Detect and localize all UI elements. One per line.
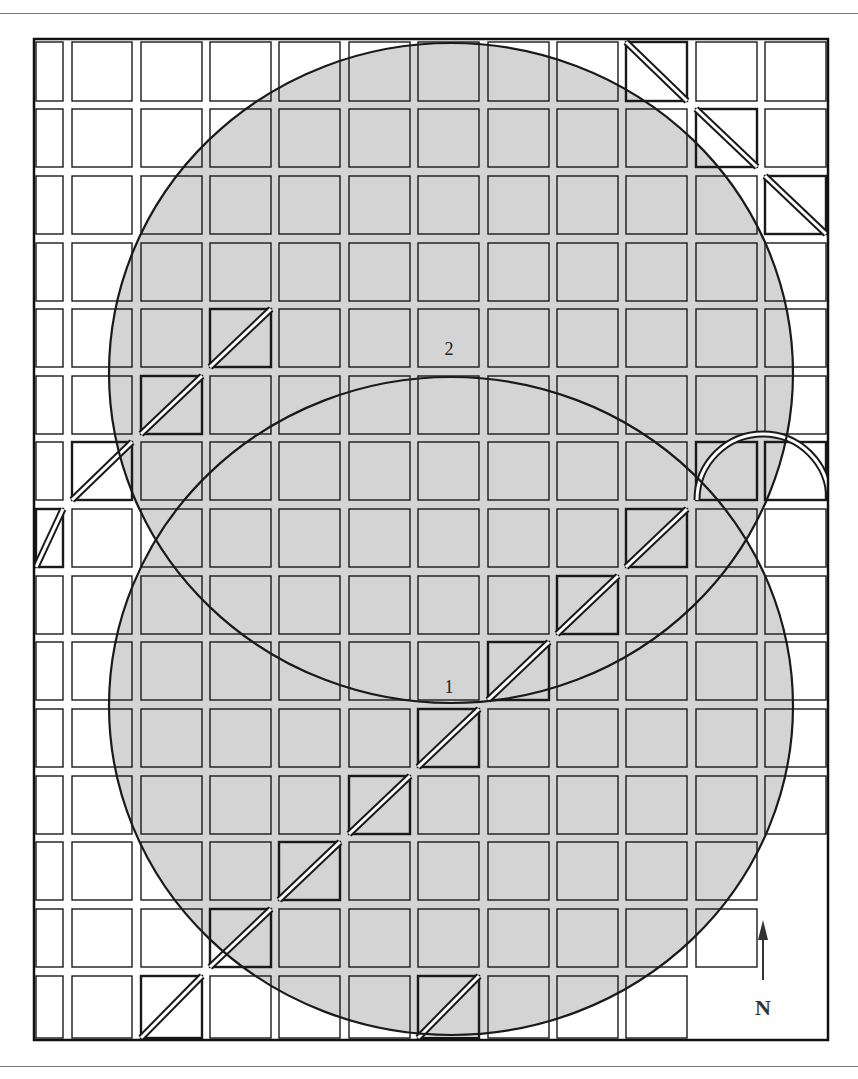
block-cell [36,376,63,434]
block-cell [36,42,63,101]
block-cell [72,109,132,167]
block-cell [72,976,132,1038]
north-arrow-head-icon [758,920,768,940]
diagonal-road [36,509,63,567]
diagonal-road [72,442,132,500]
circle-2-label: 2 [445,339,454,359]
block-cell [36,442,63,500]
diagonal-road [141,976,202,1038]
block-cell [210,42,271,101]
coverage-shading [109,43,793,1035]
block-cell [36,109,63,167]
block-cell [36,642,63,700]
diagonal-road [765,176,826,234]
block-cell [36,776,63,834]
block-cell [210,976,271,1038]
block-cell [36,309,63,367]
block-cell [36,709,63,767]
circle-2-area [109,43,793,703]
block-cell [765,42,826,101]
block-cell [36,976,63,1038]
block-cell [72,842,132,900]
north-label: N [755,995,771,1020]
block-cell [36,243,63,301]
block-cell [696,42,757,101]
block-cell [36,909,63,967]
diagonal-road [626,42,687,101]
block-cell [141,42,202,101]
block-cell [765,109,826,167]
block-cell [72,42,132,101]
block-cell [72,176,132,234]
block-cell [765,509,826,567]
block-cell [36,842,63,900]
block-cell [36,176,63,234]
block-cell [36,576,63,634]
circle-1-label: 1 [445,677,454,697]
block-cell [626,976,687,1038]
block-cell [72,509,132,567]
block-cell [72,909,132,967]
grid-diagram: 12 N [0,0,858,1079]
